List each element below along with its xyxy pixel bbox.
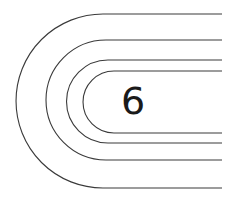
track-lane-inner bbox=[83, 71, 222, 133]
track-diagram: 6 bbox=[0, 0, 225, 203]
lane-number-label: 6 bbox=[121, 79, 145, 123]
